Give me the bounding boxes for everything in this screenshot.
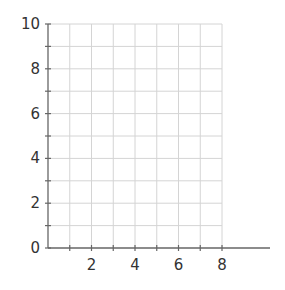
x-tick-label: 2 [87,256,97,274]
x-tick-label: 8 [217,256,227,274]
x-tick-label: 4 [130,256,140,274]
y-tick-label: 8 [30,60,40,78]
y-tick-label: 2 [30,194,40,212]
grid-lines [48,24,222,248]
axes [45,24,270,251]
tick-labels: 24680246810 [21,15,227,274]
y-tick-label: 0 [30,239,40,257]
y-tick-label: 4 [30,149,40,167]
y-tick-label: 6 [30,105,40,123]
x-tick-label: 6 [174,256,184,274]
y-tick-label: 10 [21,15,40,33]
coordinate-grid: 24680246810 [0,0,285,290]
